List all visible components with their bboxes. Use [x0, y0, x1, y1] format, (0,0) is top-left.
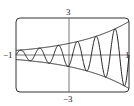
x-max-label: 1	[125, 51, 130, 60]
upper-envelope-curve	[16, 21, 129, 50]
lower-envelope-curve	[16, 60, 129, 89]
y-max-label: 3	[66, 8, 71, 17]
x-min-label: −1	[3, 51, 13, 60]
oscillating-curve	[16, 29, 129, 86]
y-min-label: −3	[63, 95, 73, 104]
